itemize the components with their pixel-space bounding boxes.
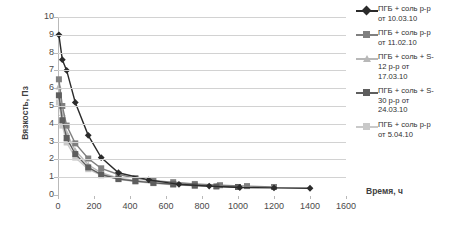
legend-label: ПГБ + соль р-рот 5.04.10 — [378, 120, 431, 139]
legend-label-line: 17.03.10 — [378, 72, 434, 82]
y-axis-tick-mark — [54, 53, 58, 54]
x-axis-tick-label: 0 — [43, 201, 73, 211]
x-axis-tick-mark — [346, 196, 347, 199]
legend-label-line: от 10.03.10 — [378, 14, 431, 24]
gridline — [58, 70, 346, 71]
legend-label: ПГБ + соль + S-12 р-р от17.03.10 — [378, 52, 434, 81]
data-point-square — [72, 151, 78, 157]
legend-marker-glyph — [362, 6, 372, 16]
gridline — [58, 35, 346, 36]
legend-marker-glyph — [363, 31, 370, 38]
legend-marker-glyph — [363, 123, 370, 130]
legend-label-line: ПГБ + соль р-р — [378, 4, 431, 14]
legend-item-3[interactable]: ПГБ + соль + S-12 р-р от17.03.10 — [356, 52, 466, 81]
data-point-diamond — [85, 132, 92, 139]
data-point-square — [98, 165, 104, 171]
y-axis-tick-mark — [54, 124, 58, 125]
y-axis-tick-label: 9 — [36, 30, 54, 39]
legend-marker-triangle-icon — [356, 53, 378, 64]
y-axis-tick-mark — [54, 35, 58, 36]
legend-marker-glyph — [363, 55, 371, 62]
x-axis-tick-mark — [310, 196, 311, 199]
x-axis-tick-label: 1600 — [331, 201, 361, 211]
gridline — [58, 17, 346, 18]
y-axis-tick-mark — [54, 70, 58, 71]
x-axis-tick-label: 400 — [115, 201, 145, 211]
gridline — [58, 88, 346, 89]
legend-label-line: от 11.02.10 — [378, 38, 431, 48]
chart-legend: ПГБ + соль р-рот 10.03.10ПГБ + соль р-ро… — [356, 4, 466, 144]
y-axis-title: Вязкость, Пз — [18, 58, 32, 168]
data-point-diamond — [307, 185, 314, 192]
legend-marker-square-icon — [356, 87, 378, 98]
series-line — [59, 86, 217, 186]
x-axis-tick-label: 1400 — [295, 201, 325, 211]
legend-item-5[interactable]: ПГБ + соль р-рот 5.04.10 — [356, 120, 466, 139]
data-point-square — [56, 92, 62, 98]
legend-marker-glyph — [363, 89, 370, 96]
y-axis-tick-mark — [54, 106, 58, 107]
y-axis-tick-label: 6 — [36, 83, 54, 92]
x-axis-tick-label: 800 — [187, 201, 217, 211]
y-axis-tick-label: 7 — [36, 65, 54, 74]
viscosity-time-chart: Вязкость, Пз 012345678910 02004006008001… — [0, 0, 466, 234]
gridline — [58, 177, 346, 178]
series-3 — [56, 83, 220, 189]
legend-marker-square-icon — [356, 29, 378, 40]
y-axis-tick-label: 2 — [36, 154, 54, 163]
legend-label-line: ПГБ + соль р-р — [378, 28, 431, 38]
y-axis-tick-label: 5 — [36, 101, 54, 110]
legend-item-1[interactable]: ПГБ + соль р-рот 10.03.10 — [356, 4, 466, 23]
legend-label-line: ПГБ + соль р-р — [378, 120, 431, 130]
y-axis-tick-label: 8 — [36, 48, 54, 57]
legend-label-line: ПГБ + соль + S- — [378, 52, 434, 62]
plot-area — [58, 17, 346, 195]
gridline — [58, 53, 346, 54]
data-point-diamond — [72, 99, 79, 106]
legend-label: ПГБ + соль р-рот 11.02.10 — [378, 28, 431, 47]
legend-label: ПГБ + соль р-рот 10.03.10 — [378, 4, 431, 23]
x-axis-tick-label: 200 — [79, 201, 109, 211]
data-point-square — [64, 135, 70, 141]
y-axis-tick-label: 0 — [36, 190, 54, 199]
y-axis-tick-mark — [54, 142, 58, 143]
x-axis-tick-mark — [130, 196, 131, 199]
legend-label-line: 24.03.10 — [378, 105, 434, 115]
legend-label: ПГБ + соль + S-30 р-р от24.03.10 — [378, 86, 434, 115]
gridline — [58, 124, 346, 125]
x-axis-title: Время, ч — [366, 186, 403, 196]
x-axis-tick-label: 1200 — [259, 201, 289, 211]
x-axis-tick-mark — [238, 196, 239, 199]
data-point-square — [56, 76, 62, 82]
y-axis-tick-mark — [54, 177, 58, 178]
y-axis-tick-mark — [54, 17, 58, 18]
legend-label-line: 30 р-р от — [378, 96, 434, 106]
y-axis-tick-label: 1 — [36, 172, 54, 181]
legend-item-4[interactable]: ПГБ + соль + S-30 р-р от24.03.10 — [356, 86, 466, 115]
legend-label-line: 12 р-р от — [378, 62, 434, 72]
gridline — [58, 159, 346, 160]
gridline — [58, 106, 346, 107]
x-axis-tick-mark — [202, 196, 203, 199]
x-axis-tick-label: 1000 — [223, 201, 253, 211]
legend-marker-diamond-icon — [356, 5, 378, 16]
x-axis-tick-mark — [58, 196, 59, 199]
x-axis-tick-mark — [274, 196, 275, 199]
data-point-square — [59, 117, 65, 123]
legend-label-line: ПГБ + соль + S- — [378, 86, 434, 96]
y-axis-tick-mark — [54, 159, 58, 160]
y-axis-tick-mark — [54, 88, 58, 89]
y-axis-tick-label: 10 — [36, 12, 54, 21]
series-line — [59, 102, 195, 185]
y-axis-tick-label: 4 — [36, 119, 54, 128]
legend-label-line: от 5.04.10 — [378, 130, 431, 140]
y-axis-title-text: Вязкость, Пз — [20, 86, 30, 140]
legend-item-2[interactable]: ПГБ + соль р-рот 11.02.10 — [356, 28, 466, 47]
data-point-square — [85, 164, 91, 170]
legend-marker-square-icon — [356, 121, 378, 132]
y-axis-tick-labels: 012345678910 — [34, 0, 54, 234]
data-point-diamond — [206, 183, 213, 190]
data-point-square — [132, 178, 138, 184]
x-axis-tick-label: 600 — [151, 201, 181, 211]
gridline — [58, 142, 346, 143]
